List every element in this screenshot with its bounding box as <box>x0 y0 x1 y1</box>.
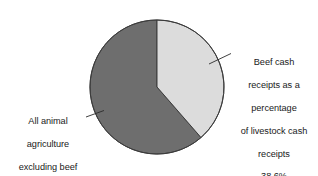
pie-label-right-line3: percentage <box>232 103 316 114</box>
pie-label-left-line3: excluding beef <box>2 162 94 173</box>
pie-label-left-line2: agriculture <box>2 139 94 150</box>
pie-label-right-line2: receipts as a <box>232 80 316 91</box>
pie-label-beef-cash-receipts: Beef cash receipts as a percentage of li… <box>232 46 316 176</box>
pie-label-right-percent: 38.6% <box>232 171 316 176</box>
pie-label-right-line4: of livestock cash <box>232 126 316 137</box>
pie-label-left-line1: All animal <box>2 116 94 127</box>
pie-label-right-line5: receipts <box>232 149 316 160</box>
pie-chart-figure: Beef cash receipts as a percentage of li… <box>0 0 318 176</box>
pie-label-right-line1: Beef cash <box>232 57 316 68</box>
pie-label-all-animal-agriculture-excluding-beef: All animal agriculture excluding beef 61… <box>2 105 94 176</box>
